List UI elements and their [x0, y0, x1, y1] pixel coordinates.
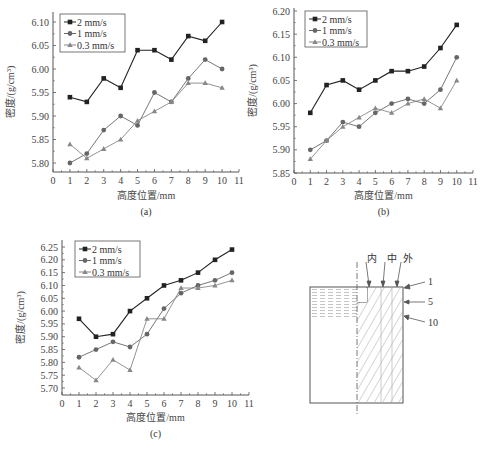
data-point: [162, 283, 167, 288]
series-1-mm-s: [68, 57, 225, 165]
data-point: [373, 110, 378, 115]
legend-marker: [313, 28, 318, 33]
series-0-3-mm-s: [308, 78, 460, 161]
data-point: [94, 334, 99, 339]
legend: 2 mm/s1 mm/s0.3 mm/s: [305, 11, 367, 48]
legend-marker: [313, 17, 318, 22]
y-tick-label: 5.75: [41, 370, 59, 381]
subfigure-caption: (a): [140, 206, 151, 218]
label-inner: 内: [367, 252, 377, 264]
data-point: [438, 87, 443, 92]
y-axis-title: 密度/(g/cm³): [4, 66, 17, 118]
data-point: [162, 306, 167, 311]
x-tick-label: 2: [84, 175, 89, 186]
x-tick-label: 0: [292, 176, 297, 187]
subfigure-caption: (c): [150, 428, 161, 440]
data-point: [406, 69, 411, 74]
y-tick-label: 5.90: [32, 111, 50, 122]
label-pos-5: 5: [428, 296, 433, 307]
data-point: [101, 76, 106, 81]
data-point: [118, 114, 123, 119]
data-point: [308, 147, 313, 152]
x-tick-label: 0: [60, 398, 65, 409]
x-tick-label: 11: [234, 175, 244, 186]
data-point: [94, 347, 99, 352]
data-point: [196, 270, 201, 275]
subfigure-caption: (b): [378, 206, 390, 218]
x-tick-label: 7: [179, 398, 184, 409]
data-point: [454, 55, 459, 60]
x-axis-title: 高度位置/mm: [117, 189, 176, 201]
data-point: [135, 118, 140, 123]
x-tick-label: 1: [77, 398, 82, 409]
y-tick-label: 6.15: [41, 267, 59, 278]
data-point: [203, 57, 208, 62]
data-point: [135, 123, 140, 128]
x-tick-label: 4: [118, 175, 123, 186]
legend-label: 1 mm/s: [77, 28, 107, 39]
x-tick-label: 4: [128, 398, 133, 409]
x-tick-label: 5: [135, 175, 140, 186]
chart-a: 012345678910115.805.855.905.956.006.056.…: [4, 12, 244, 218]
x-tick-label: 6: [389, 176, 394, 187]
y-tick-label: 6.10: [41, 280, 59, 291]
legend-label: 2 mm/s: [92, 244, 122, 255]
x-tick-label: 2: [94, 398, 99, 409]
data-point: [110, 357, 115, 362]
data-point: [152, 90, 157, 95]
legend-label: 2 mm/s: [322, 14, 352, 25]
data-point: [169, 57, 174, 62]
figure-canvas: 012345678910115.805.855.905.956.006.056.…: [0, 0, 486, 459]
data-point: [179, 278, 184, 283]
y-tick-label: 6.15: [273, 29, 291, 40]
legend-label: 0.3 mm/s: [77, 40, 114, 51]
label-outer: 外: [403, 253, 413, 264]
side-arrows: [404, 282, 425, 322]
x-tick-label: 11: [244, 398, 254, 409]
x-tick-label: 1: [308, 176, 313, 187]
y-axis-title: 密度/(g/cm³): [246, 64, 259, 116]
x-axis-title: 高度位置/mm: [354, 189, 413, 201]
hatched-region: [357, 287, 403, 403]
data-point: [118, 86, 123, 91]
data-point: [152, 109, 157, 114]
y-tick-label: 5.80: [32, 158, 50, 169]
data-point: [213, 258, 218, 263]
data-point: [128, 345, 133, 350]
data-point: [186, 34, 191, 39]
data-point: [438, 105, 443, 110]
y-tick-label: 6.05: [273, 75, 291, 86]
chart-b: 012345678910115.855.905.956.006.056.106.…: [246, 6, 478, 219]
dashed-region: [310, 288, 357, 318]
y-tick-label: 5.95: [273, 121, 291, 132]
y-tick-label: 6.20: [41, 254, 59, 265]
data-point: [422, 101, 427, 106]
x-tick-label: 6: [152, 175, 157, 186]
data-point: [77, 316, 82, 321]
data-point: [454, 23, 459, 28]
data-point: [186, 76, 191, 81]
data-point: [308, 111, 313, 116]
data-point: [421, 96, 426, 101]
x-tick-label: 8: [422, 176, 427, 187]
data-point: [68, 95, 73, 100]
chart-c: 012345678910115.705.755.805.855.905.956.…: [14, 240, 254, 440]
top-arrows: [366, 262, 401, 287]
legend-label: 0.3 mm/s: [92, 267, 129, 278]
data-point: [101, 146, 106, 151]
x-axis-title: 高度位置/mm: [126, 411, 185, 423]
y-tick-label: 5.80: [41, 357, 59, 368]
x-tick-label: 7: [405, 176, 410, 187]
y-tick-label: 5.95: [41, 318, 59, 329]
x-tick-label: 10: [452, 176, 462, 187]
y-tick-label: 5.90: [273, 144, 291, 155]
legend-label: 2 mm/s: [77, 17, 107, 28]
y-tick-label: 5.90: [41, 331, 59, 342]
x-tick-label: 11: [468, 176, 478, 187]
data-point: [203, 39, 208, 44]
y-tick-label: 5.95: [32, 87, 50, 98]
x-tick-label: 3: [101, 175, 106, 186]
y-tick-label: 6.00: [41, 306, 59, 317]
x-tick-label: 2: [324, 176, 329, 187]
data-point: [340, 120, 345, 125]
